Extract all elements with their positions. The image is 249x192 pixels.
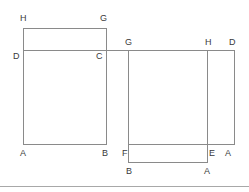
vertex-label-right-D: D — [229, 38, 236, 47]
right-figure — [107, 50, 235, 163]
vertex-label-right-A-bottom: A — [204, 167, 210, 176]
vertex-label-right-H: H — [205, 38, 212, 47]
vertex-label-left-G: G — [100, 14, 107, 23]
vertex-label-left-D: D — [13, 52, 20, 61]
vertex-label-left-A: A — [20, 149, 26, 158]
vertex-label-right-A-top: A — [225, 149, 231, 158]
figure-canvas — [0, 0, 249, 192]
vertex-label-right-E: E — [209, 149, 215, 158]
vertex-label-left-B: B — [102, 149, 108, 158]
vertex-label-left-C: C — [96, 52, 103, 61]
vertex-label-right-B-bottom: B — [126, 167, 132, 176]
geometry-diagram: H G D C A B G H D F E A B A — [0, 0, 249, 192]
vertex-label-right-G: G — [125, 38, 132, 47]
left-figure — [23, 28, 107, 145]
vertex-label-right-F: F — [122, 149, 128, 158]
vertex-label-left-H: H — [20, 14, 27, 23]
